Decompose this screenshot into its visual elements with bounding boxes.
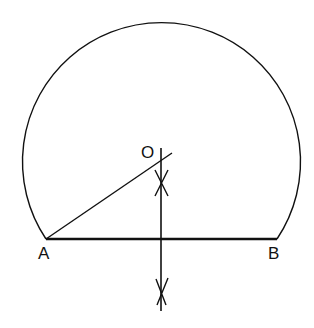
label-a: A: [38, 245, 49, 262]
label-o: O: [141, 144, 154, 161]
lower-arc-mark: [156, 278, 168, 305]
geometry-diagram: [0, 0, 314, 328]
label-b: B: [268, 245, 279, 262]
radius-oa: [46, 153, 172, 239]
